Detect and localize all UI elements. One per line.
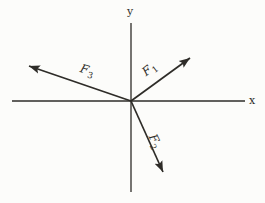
force-diagram: y x F1 F2 F3 <box>0 0 265 203</box>
y-axis-label: y <box>127 6 133 17</box>
diagram-canvas <box>0 0 265 203</box>
x-axis-label: x <box>249 95 255 106</box>
vector-f1-arrow <box>131 58 190 101</box>
